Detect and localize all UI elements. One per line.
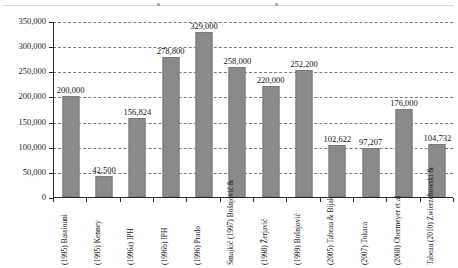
x-axis-category-label-line: IPH bbox=[127, 227, 135, 241]
x-axis-category-label-line: (1996b) bbox=[161, 241, 169, 266]
x-axis-category-label-line: Tabeau & Bijak bbox=[327, 196, 335, 245]
x-axis-category-label-line: Obermeyer et al bbox=[394, 195, 402, 245]
x-axis-category-label-line: Tokaca bbox=[361, 221, 369, 244]
x-axis-category-label: (2008)Obermeyer et al bbox=[386, 200, 419, 266]
x-axis-category-label-group: (1995)Bassiouni(1995)Kenney(1996a)IPH(19… bbox=[53, 200, 453, 266]
scan-artifact-line bbox=[4, 5, 454, 6]
bar-slot: 258,000 bbox=[221, 22, 254, 197]
x-axis-category-label: (1999)Bošnjović bbox=[286, 200, 319, 266]
x-axis-category-label-line: Bošnjović & bbox=[227, 179, 235, 219]
x-axis-category-label-line: (2005) bbox=[327, 244, 335, 266]
y-axis-tick-label: 50,000 bbox=[0, 168, 46, 177]
x-axis-category-label-line: (1995) bbox=[61, 244, 69, 266]
x-axis-category-label-rotated: Smajkić (1997)Bošnjović & bbox=[227, 179, 235, 266]
bar[interactable] bbox=[162, 57, 179, 197]
x-axis-category-label-line: (1998) bbox=[261, 244, 269, 266]
x-axis-category-label: (1998)Žerjavić bbox=[253, 200, 286, 266]
bar[interactable] bbox=[395, 109, 412, 198]
x-axis-category-label-line: Žerjavić bbox=[261, 218, 269, 245]
x-axis-category-label-line: Tabeau (2010) bbox=[427, 221, 435, 266]
bar-slot: 252,200 bbox=[287, 22, 320, 197]
bar[interactable] bbox=[329, 145, 346, 197]
bar-value-label: 258,000 bbox=[224, 56, 252, 66]
x-axis-category-label-rotated: (1996a)IPH bbox=[127, 227, 135, 266]
x-axis-category-label-line: (1996a) bbox=[127, 241, 135, 266]
x-axis-category-label-line: Smajkić (1997) bbox=[227, 218, 235, 266]
x-axis-category-label-rotated: (1996b)IPH bbox=[161, 227, 169, 266]
x-axis-category-label: (1995)Kenney bbox=[86, 200, 119, 266]
bar-slot: 102,622 bbox=[321, 22, 354, 197]
x-axis-category-label-rotated: (1999)Bošnjović bbox=[294, 212, 302, 266]
x-axis-category-label-line: (1999) bbox=[294, 244, 302, 266]
x-axis-category-label-rotated: (2007)Tokaca bbox=[361, 221, 369, 266]
y-axis-tick-label: 150,000 bbox=[0, 118, 46, 127]
x-axis-category-label-line: Bošnjović bbox=[294, 212, 302, 244]
x-axis-category-label: (2005)Tabeau & Bijak bbox=[320, 200, 353, 266]
bar-value-label: 220,000 bbox=[257, 75, 285, 85]
x-axis-category-label-line: Zwierzchowski & bbox=[427, 166, 435, 221]
bar-value-label: 156,824 bbox=[124, 107, 152, 117]
x-axis-category-label-rotated: (1996)Prado bbox=[194, 225, 202, 266]
x-tick-mark bbox=[453, 198, 454, 202]
bar[interactable] bbox=[195, 32, 212, 197]
bar-value-label: 278,800 bbox=[157, 46, 185, 56]
x-axis-category-label-line: Bassiouni bbox=[61, 213, 69, 244]
bar-slot: 329,000 bbox=[187, 22, 220, 197]
x-axis-category-label-line: Kenney bbox=[94, 219, 102, 244]
bar-slot: 200,000 bbox=[54, 22, 87, 197]
y-axis-tick-label: 100,000 bbox=[0, 143, 46, 152]
scan-artifact-dot bbox=[157, 3, 160, 6]
x-axis-category-label-rotated: (1998)Žerjavić bbox=[261, 218, 269, 266]
scan-artifact-dot bbox=[275, 3, 278, 6]
x-axis-category-label: Tabeau (2010)Zwierzchowski & bbox=[420, 200, 453, 266]
bar-value-label: 329,000 bbox=[190, 21, 218, 31]
x-axis-category-label-rotated: (1995)Bassiouni bbox=[61, 213, 69, 266]
bar[interactable] bbox=[229, 67, 246, 197]
x-axis-category-label-line: (1995) bbox=[94, 244, 102, 266]
bar-value-label: 252,200 bbox=[290, 59, 318, 69]
plot-area: 200,00042,500156,824278,800329,000258,00… bbox=[53, 22, 453, 198]
bar[interactable] bbox=[129, 118, 146, 197]
x-axis-category-label: Smajkić (1997)Bošnjović & bbox=[220, 200, 253, 266]
bar-slot: 176,000 bbox=[387, 22, 420, 197]
x-axis-category-label: (1995)Bassiouni bbox=[53, 200, 86, 266]
bar-value-label: 200,000 bbox=[57, 85, 85, 95]
x-axis-category-label-rotated: Tabeau (2010)Zwierzchowski & bbox=[427, 166, 435, 266]
bar-value-label: 102,622 bbox=[324, 134, 352, 144]
bar-value-label: 176,000 bbox=[390, 98, 418, 108]
bar-slot: 97,207 bbox=[354, 22, 387, 197]
bar-slot: 42,500 bbox=[87, 22, 120, 197]
bar-chart-figure: 200,00042,500156,824278,800329,000258,00… bbox=[0, 0, 458, 268]
x-axis-category-label-rotated: (1995)Kenney bbox=[94, 219, 102, 266]
bar-slot: 220,000 bbox=[254, 22, 287, 197]
bar[interactable] bbox=[362, 148, 379, 197]
y-axis-tick-label: 300,000 bbox=[0, 42, 46, 51]
y-axis-tick-label: 0 bbox=[0, 193, 46, 202]
x-axis-category-label-line: (2008) bbox=[394, 244, 402, 266]
bar[interactable] bbox=[62, 96, 79, 197]
x-axis-category-label-line: (1996) bbox=[194, 244, 202, 266]
x-axis-category-label: (1996)Prado bbox=[186, 200, 219, 266]
bar-value-label: 104,732 bbox=[424, 133, 452, 143]
y-axis-tick-label: 200,000 bbox=[0, 92, 46, 101]
bar-slot: 278,800 bbox=[154, 22, 187, 197]
y-axis-tick-label: 250,000 bbox=[0, 67, 46, 76]
y-axis-tick-label: 350,000 bbox=[0, 17, 46, 26]
bar[interactable] bbox=[262, 86, 279, 197]
bar-value-label: 42,500 bbox=[92, 165, 115, 175]
x-axis-category-label: (1996b)IPH bbox=[153, 200, 186, 266]
bar[interactable] bbox=[295, 70, 312, 197]
bar-value-label: 97,207 bbox=[359, 137, 382, 147]
x-axis-category-label-rotated: (2008)Obermeyer et al bbox=[394, 195, 402, 266]
x-axis-category-label: (1996a)IPH bbox=[120, 200, 153, 266]
x-axis-category-label-line: Prado bbox=[194, 225, 202, 244]
bar[interactable] bbox=[95, 176, 112, 197]
x-axis-category-label-line: (2007) bbox=[361, 244, 369, 266]
x-axis-category-label-line: IPH bbox=[161, 227, 169, 241]
bar-group: 200,00042,500156,824278,800329,000258,00… bbox=[54, 22, 453, 197]
x-axis-category-label: (2007)Tokaca bbox=[353, 200, 386, 266]
bar-slot: 156,824 bbox=[121, 22, 154, 197]
x-axis-category-label-rotated: (2005)Tabeau & Bijak bbox=[327, 196, 335, 266]
